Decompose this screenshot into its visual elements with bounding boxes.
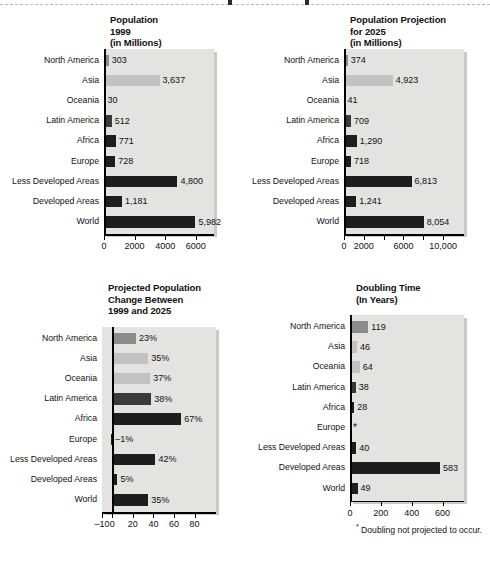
bar [112, 333, 136, 345]
bar-value-label: 40 [359, 442, 369, 454]
bar-value-label: 5% [120, 473, 133, 485]
bar-value-label: 728 [118, 155, 133, 167]
category-label: Developed Areas [8, 474, 102, 484]
chart-area: North America23%Asia35%Oceania37%Latin A… [8, 327, 236, 547]
bar-value-label: 8,054 [427, 216, 450, 228]
category-label: Oceania [8, 373, 102, 383]
category-label: Oceania [250, 95, 344, 105]
category-label: Latin America [8, 393, 102, 403]
footnote-text: Doubling not projected to occur. [359, 525, 482, 535]
y-axis-line [112, 327, 114, 513]
perforation-crumb [305, 0, 309, 5]
bar-value-label: 30 [107, 94, 117, 106]
category-label: Africa [8, 413, 102, 423]
x-axis-tick [196, 236, 197, 240]
category-label: Asia [8, 75, 104, 85]
x-axis-tick [423, 236, 424, 240]
bar-value-label: 6,813 [415, 175, 438, 187]
bar [104, 196, 122, 208]
category-label: Europe [250, 156, 344, 166]
category-label: North America [8, 55, 104, 65]
perforation-crumb [228, 0, 232, 5]
bar-value-label: 5,982 [198, 216, 221, 228]
category-label: Europe [8, 434, 102, 444]
bar-value-label: 41 [347, 94, 357, 106]
bar [350, 321, 368, 333]
x-axis-tick [174, 514, 175, 518]
category-label: Latin America [250, 115, 344, 125]
bar-value-label: 37% [153, 372, 171, 384]
category-label: Developed Areas [250, 196, 344, 206]
bar-value-label: 771 [119, 135, 134, 147]
bar [344, 135, 357, 147]
x-axis-tick-label: 6000 [381, 241, 425, 251]
bar [104, 156, 115, 168]
x-axis-tick [443, 502, 444, 506]
category-label: Oceania [8, 95, 104, 105]
x-axis-tick-label: 600 [421, 508, 465, 518]
bar [112, 413, 181, 425]
bar-value-label: 38 [359, 381, 369, 393]
bar-value-label: 46 [360, 341, 370, 353]
category-label: Less Developed Areas [250, 442, 350, 452]
category-label: World [250, 483, 350, 493]
bar-value-label: 49 [361, 482, 371, 494]
bar-value-label: 4,800 [180, 175, 203, 187]
x-axis-tick [443, 236, 444, 240]
category-label: North America [8, 333, 102, 343]
x-axis-tick [165, 236, 166, 240]
x-axis-tick [102, 514, 103, 518]
x-axis-tick [381, 502, 382, 506]
x-axis-line [104, 234, 214, 236]
x-axis-line [102, 512, 216, 514]
category-label: Latin America [250, 382, 350, 392]
x-axis-tick [364, 236, 365, 240]
bar [344, 75, 393, 87]
category-label: Asia [250, 341, 350, 351]
category-label: World [8, 216, 104, 226]
category-label: North America [250, 55, 344, 65]
x-axis-tick [350, 502, 351, 506]
bar-value-label: 583 [443, 462, 458, 474]
chart-area: North America303Asia3,637Oceania30Latin … [8, 49, 236, 269]
bar-value-label: 35% [151, 352, 169, 364]
bar-value-label: 119 [371, 321, 385, 333]
chart-title: Population Projection for 2025 (in Milli… [350, 14, 488, 49]
bar [112, 494, 148, 506]
category-label: Developed Areas [8, 196, 104, 206]
bar-value-label: 4,923 [396, 74, 419, 86]
x-axis-tick [195, 514, 196, 518]
category-label: Africa [250, 402, 350, 412]
bar-value-label: 1,181 [125, 195, 148, 207]
bar [112, 373, 150, 385]
chart-panel-doubling-time: Doubling Time (In Years) North America11… [250, 282, 488, 560]
bar [112, 353, 148, 365]
category-label: Less Developed Areas [8, 454, 102, 464]
bar [350, 462, 440, 474]
bar [104, 135, 116, 147]
y-axis-line [104, 49, 106, 235]
bar-value-label: 374 [351, 54, 366, 66]
bar-value-label: 303 [112, 54, 127, 66]
bar-value-label: 3,637 [163, 74, 186, 86]
x-axis-tick [153, 514, 154, 518]
category-label: World [8, 494, 102, 504]
perforation-line [0, 4, 490, 5]
x-axis-tick-label: 10,000 [421, 241, 465, 251]
x-axis-tick [384, 236, 385, 240]
x-axis-tick-label: 2000 [342, 241, 386, 251]
bar [104, 75, 160, 87]
bar-value-label: 42% [158, 453, 176, 465]
x-axis-tick [133, 514, 134, 518]
chart-area: North America374Asia4,923Oceania41Latin … [250, 49, 488, 269]
category-label: Less Developed Areas [250, 176, 344, 186]
y-axis-line [350, 315, 352, 501]
chart-panel-population-1999: Population 1999 (in Millions) North Amer… [8, 14, 236, 276]
category-label: Developed Areas [250, 462, 350, 472]
x-axis-tick [412, 502, 413, 506]
category-label: Africa [250, 135, 344, 145]
x-axis-tick [403, 236, 404, 240]
bar [344, 196, 356, 208]
bar-value-label: * [353, 422, 357, 434]
x-axis-tick-label: 6000 [174, 241, 218, 251]
